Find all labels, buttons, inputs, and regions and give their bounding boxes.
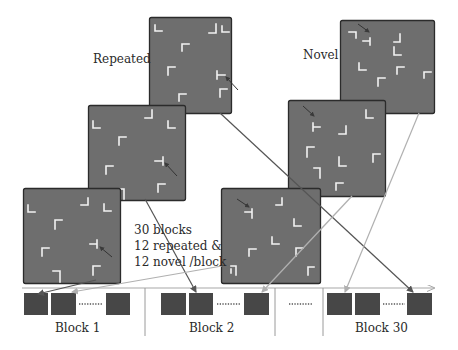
- repeated-display-2: [89, 106, 186, 201]
- block-30-trials: [327, 293, 432, 315]
- novel-display-1: [341, 21, 435, 114]
- trial-box: [189, 293, 213, 315]
- note-line-blocks: 30 blocks: [134, 222, 226, 238]
- design-note: 30 blocks 12 repeated & 12 novel /block: [134, 222, 226, 270]
- block-2-trials: [161, 293, 269, 315]
- trial-box: [407, 293, 432, 315]
- note-line-repeated: 12 repeated &: [134, 238, 226, 254]
- repeated-display-3: [24, 189, 121, 284]
- block-label-1: Block 1: [55, 321, 100, 335]
- trial-box: [24, 293, 48, 315]
- trial-box: [327, 293, 352, 315]
- trial-box: [161, 293, 186, 315]
- novel-display-2: [289, 101, 386, 197]
- trial-box: [51, 293, 76, 315]
- block-label-2: Block 2: [189, 321, 234, 335]
- contextual-cueing-diagram: [0, 0, 458, 350]
- novel-display-3: [222, 189, 321, 284]
- novel-label: Novel: [303, 48, 338, 62]
- trial-box: [106, 293, 130, 315]
- repeated-display-1: [150, 18, 239, 114]
- trial-box: [244, 293, 269, 315]
- repeated-label: Repeated: [93, 52, 151, 66]
- note-line-novel: 12 novel /block: [134, 254, 226, 270]
- block-1-trials: [24, 293, 130, 315]
- trial-box: [355, 293, 380, 315]
- block-label-30: Block 30: [355, 321, 408, 335]
